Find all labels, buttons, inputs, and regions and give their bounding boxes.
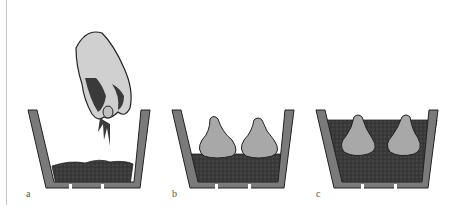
panel-label-a: a (26, 188, 31, 199)
panel-a (28, 32, 150, 190)
panel-c (316, 110, 438, 190)
panel-label-c: c (316, 188, 321, 199)
bulb-planting-illustration: a b c (0, 0, 458, 217)
panel-b (172, 110, 294, 190)
panel-label-b: b (172, 188, 177, 199)
